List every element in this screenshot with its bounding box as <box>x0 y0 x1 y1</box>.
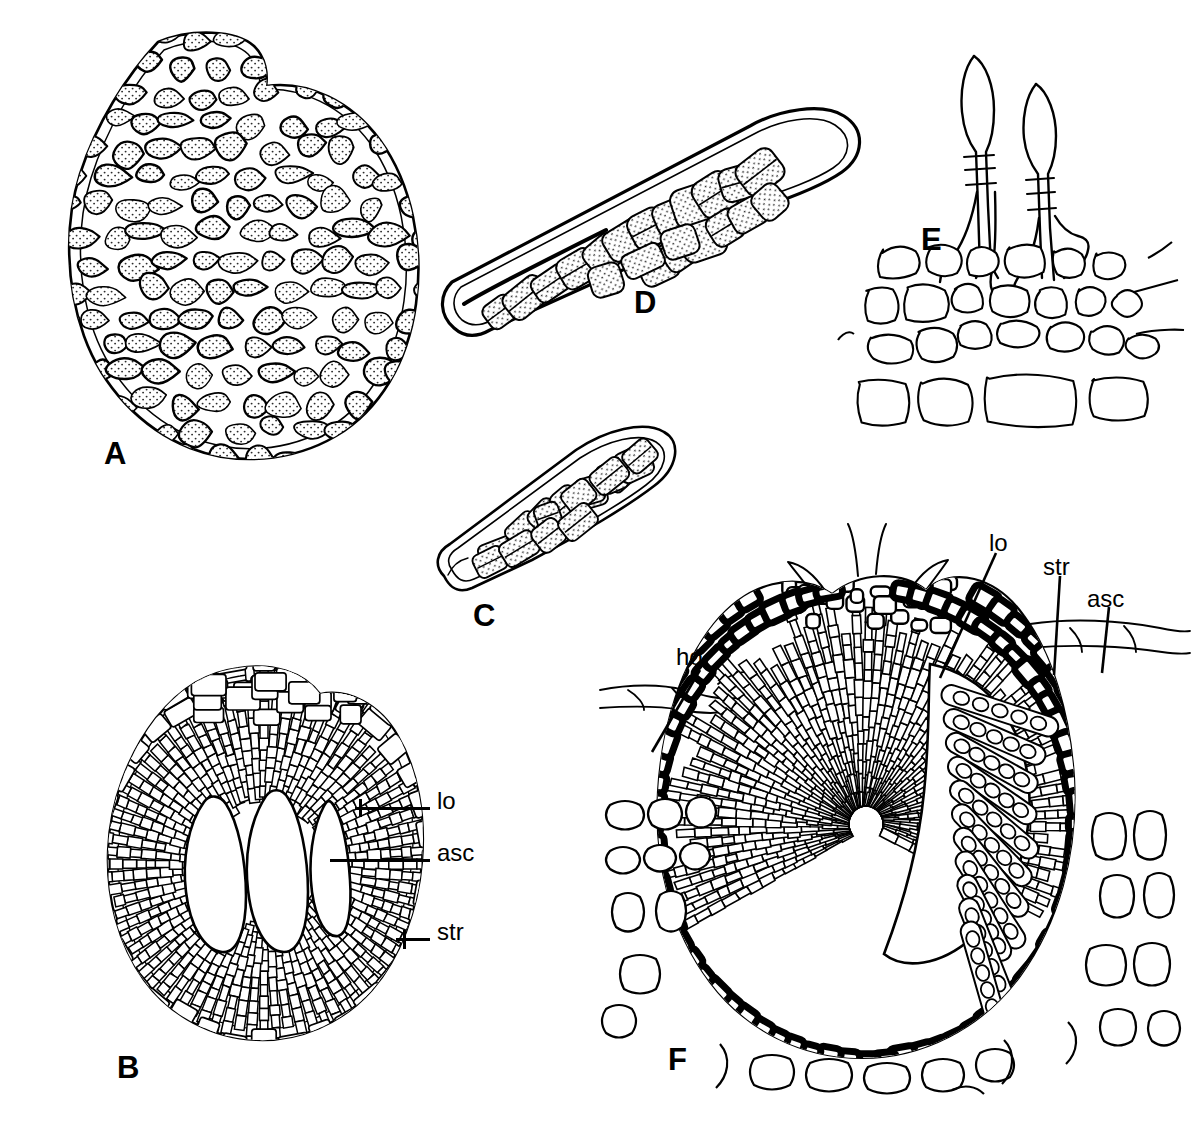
callout-label-asc-b: asc <box>437 841 474 865</box>
panel-letter-f: F <box>668 1044 687 1075</box>
panel-letter-b: B <box>117 1052 139 1083</box>
panel-a-ascoma-surface: A <box>40 24 440 464</box>
panel-letter-d: D <box>634 287 656 318</box>
panel-a-drawing <box>40 24 440 464</box>
panel-e-base-cells <box>838 242 1184 427</box>
callout-label-ho-f: ho <box>676 645 703 669</box>
leader-tick-lo-b <box>359 799 362 817</box>
panel-letter-e: E <box>921 224 942 255</box>
callout-label-lo-b: lo <box>437 789 456 813</box>
panel-a-cell-mosaic <box>0 0 487 506</box>
leader-tick-str-b <box>403 930 406 949</box>
figure-plate: A D <box>0 0 1198 1132</box>
panel-e-conidiophores: E <box>848 34 1188 444</box>
callout-label-lo-f: lo <box>989 531 1008 555</box>
callout-label-asc-f: asc <box>1087 587 1124 611</box>
leader-line-lo-b <box>355 807 430 810</box>
panel-b-tissue <box>39 630 486 1100</box>
callout-label-str-b: str <box>437 920 464 944</box>
leader-line-str-b <box>396 938 430 941</box>
leader-line-lo-f <box>930 545 1010 685</box>
panel-letter-c: C <box>473 600 495 631</box>
panel-d-ascus: D <box>430 90 900 350</box>
panel-d-drawing <box>430 90 900 350</box>
callout-label-str-f: str <box>1043 555 1070 579</box>
leader-line-asc-b <box>330 859 430 862</box>
panel-e-drawing <box>848 34 1188 444</box>
panel-b-locules <box>185 790 351 952</box>
leader-line-ho-f <box>630 655 720 765</box>
leader-line-asc-f <box>1092 603 1122 681</box>
panel-letter-a: A <box>104 438 126 469</box>
leader-line-str-f <box>1044 570 1074 680</box>
